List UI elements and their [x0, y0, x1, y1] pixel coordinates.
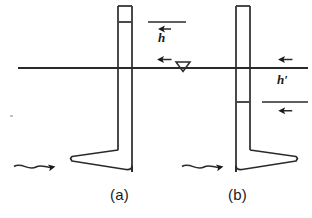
diagram-vector-layer	[0, 0, 312, 218]
water-surface-triangle-icon	[176, 62, 190, 72]
figure-canvas: h h′ (a) (b)	[0, 0, 312, 218]
panel-label-b: (b)	[228, 186, 247, 203]
tube-foot-a	[71, 150, 133, 172]
tube-foot-b	[236, 150, 298, 172]
pitot-tube-b	[236, 6, 298, 172]
flow-arrow-b	[182, 165, 220, 168]
dimension-label-h-prime: h′	[277, 72, 288, 88]
dimension-h	[148, 22, 186, 60]
panel-label-a: (a)	[110, 186, 129, 203]
dimension-label-h: h	[158, 30, 165, 46]
flow-arrow-a	[14, 165, 52, 168]
scan-speck	[10, 115, 13, 117]
pitot-tube-a	[71, 6, 133, 172]
